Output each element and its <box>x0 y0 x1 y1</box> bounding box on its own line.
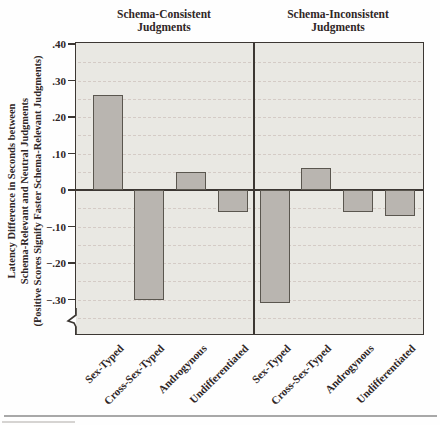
panel-title-line2: Judgments <box>74 21 254 34</box>
bar-sex-typed <box>260 190 290 303</box>
y-tick <box>68 43 75 45</box>
gridline <box>78 227 421 228</box>
bar-sex-typed <box>93 95 123 190</box>
y-tick <box>68 189 75 191</box>
bar-cross-sex-typed <box>134 190 164 300</box>
y-tick <box>68 116 75 118</box>
gridline <box>78 281 421 282</box>
gridline <box>78 99 421 100</box>
panel-title-line2: Judgments <box>248 21 428 34</box>
y-tick-label: −.10 <box>28 222 66 233</box>
y-tick-label: .30 <box>28 76 66 87</box>
bottom-rule <box>4 415 437 417</box>
figure: Latency Difference in Seconds between Sc… <box>0 0 440 425</box>
y-tick-label: .20 <box>28 112 66 123</box>
bar-androgynous <box>343 190 373 212</box>
y-axis-title-line1: Latency Difference in Seconds between <box>5 36 18 346</box>
gridline <box>78 62 421 63</box>
bar-undifferentiated <box>218 190 248 212</box>
y-tick-label: 0 <box>28 185 66 196</box>
y-tick-label: .40 <box>28 39 66 50</box>
gridline <box>78 154 421 155</box>
panel-title-schema-consistent: Schema-Consistent Judgments <box>74 8 254 34</box>
axis-break-icon <box>66 308 84 334</box>
gridline <box>78 300 421 301</box>
gridline <box>78 135 421 136</box>
panel-title-line1: Schema-Inconsistent <box>248 8 428 21</box>
y-tick-label: −.30 <box>28 295 66 306</box>
y-tick-label: .10 <box>28 149 66 160</box>
y-tick-label: −.20 <box>28 258 66 269</box>
gridline <box>78 318 421 319</box>
gridline <box>78 263 421 264</box>
gridline <box>78 81 421 82</box>
y-tick <box>68 226 75 228</box>
gridline <box>78 172 421 173</box>
y-tick <box>68 153 75 155</box>
y-tick <box>68 80 75 82</box>
bar-androgynous <box>176 172 206 190</box>
bar-undifferentiated <box>385 190 415 216</box>
bar-cross-sex-typed <box>301 168 331 190</box>
panel-divider <box>253 43 255 334</box>
y-tick <box>68 262 75 264</box>
caption-remnant <box>2 421 75 423</box>
y-tick <box>68 299 75 301</box>
plot-area <box>75 42 424 335</box>
panel-title-schema-inconsistent: Schema-Inconsistent Judgments <box>248 8 428 34</box>
gridline <box>78 117 421 118</box>
gridline <box>78 245 421 246</box>
panel-title-line1: Schema-Consistent <box>74 8 254 21</box>
